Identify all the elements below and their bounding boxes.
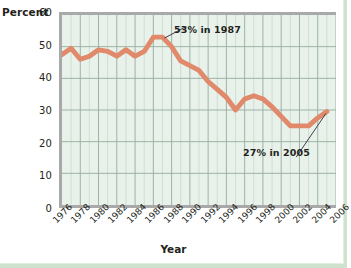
peak-annotation: 53% in 1987 bbox=[174, 24, 241, 35]
data-series-line bbox=[62, 37, 327, 126]
end-annotation: 27% in 2005 bbox=[243, 147, 310, 158]
y-tick-label: 60 bbox=[39, 7, 52, 18]
y-tick-label: 50 bbox=[39, 39, 52, 50]
x-axis-title: Year bbox=[0, 243, 347, 255]
y-tick-label: 10 bbox=[39, 170, 52, 181]
y-tick-label: 0 bbox=[45, 203, 52, 214]
y-tick-label: 20 bbox=[39, 137, 52, 148]
y-tick-label: 40 bbox=[39, 72, 52, 83]
chart-svg bbox=[62, 15, 336, 205]
y-tick-label: 30 bbox=[39, 105, 52, 116]
y-axis-tick-labels: 0102030405060 bbox=[0, 0, 57, 220]
plot-area bbox=[59, 12, 336, 208]
